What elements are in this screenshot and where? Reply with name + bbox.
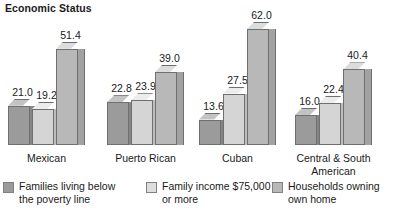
bar-top-face — [199, 113, 221, 120]
bar-group: 13.627.562.0Cuban — [199, 18, 276, 168]
bar-top-face — [223, 87, 245, 94]
bar — [107, 102, 129, 145]
chart-legend: Families living below the poverty lineFa… — [0, 180, 406, 223]
bar-front-face — [107, 102, 129, 145]
bar-top-face — [295, 108, 317, 115]
bar-top-face — [155, 65, 177, 72]
legend-item[interactable]: Families living below the poverty line — [3, 180, 143, 205]
bar-group: 22.823.939.0Puerto Rican — [107, 18, 184, 168]
bar-top-face — [56, 42, 78, 49]
bar-front-face — [199, 120, 221, 145]
bar-front-face — [8, 106, 30, 145]
bar — [8, 106, 30, 145]
bar — [131, 100, 153, 145]
bar — [223, 94, 245, 145]
category-label: Central & South American — [281, 152, 386, 177]
bar-top-face — [8, 99, 30, 106]
legend-label: Family income $75,000 or more — [162, 180, 271, 205]
bar-top-face — [131, 93, 153, 100]
bar — [199, 120, 221, 145]
legend-item[interactable]: Households owning own home — [272, 180, 404, 205]
bar — [295, 115, 317, 145]
category-label: Puerto Rican — [93, 152, 198, 165]
legend-swatch-icon — [272, 182, 283, 193]
bar — [56, 49, 78, 145]
bar-value-label: 40.4 — [340, 49, 375, 61]
category-label: Mexican — [0, 152, 99, 165]
category-label: Cuban — [185, 152, 290, 165]
legend-swatch-icon — [3, 182, 14, 193]
bar-group: 16.022.440.4Central & South American — [295, 18, 372, 168]
bar-top-face — [247, 22, 269, 29]
bar-front-face — [223, 94, 245, 145]
bar — [155, 72, 177, 145]
bar-group: 21.019.251.4Mexican — [8, 18, 85, 168]
bar-value-label: 62.0 — [244, 9, 279, 21]
bar-side-face — [177, 72, 184, 145]
legend-label: Households owning own home — [288, 180, 380, 205]
bar-front-face — [247, 29, 269, 145]
bar-side-face — [78, 49, 85, 145]
bar-front-face — [32, 109, 54, 145]
bar-value-label: 51.4 — [53, 29, 88, 41]
bar-front-face — [295, 115, 317, 145]
bar-front-face — [56, 49, 78, 145]
plot-area: 21.019.251.4Mexican22.823.939.0Puerto Ri… — [0, 18, 406, 168]
bar-front-face — [131, 100, 153, 145]
bar-value-label: 39.0 — [152, 52, 187, 64]
bar-top-face — [107, 95, 129, 102]
bar — [343, 69, 365, 145]
bar-front-face — [319, 103, 341, 145]
bar-front-face — [155, 72, 177, 145]
legend-item[interactable]: Family income $75,000 or more — [146, 180, 271, 205]
legend-swatch-icon — [146, 182, 157, 193]
legend-label: Families living below the poverty line — [19, 180, 115, 205]
bar-side-face — [365, 69, 372, 145]
bar-top-face — [343, 62, 365, 69]
bar — [247, 29, 269, 145]
bar — [32, 109, 54, 145]
bar — [319, 103, 341, 145]
economic-status-chart: Economic Status 21.019.251.4Mexican22.82… — [0, 0, 406, 223]
chart-title: Economic Status — [5, 2, 92, 14]
bar-front-face — [343, 69, 365, 145]
bar-side-face — [269, 29, 276, 145]
